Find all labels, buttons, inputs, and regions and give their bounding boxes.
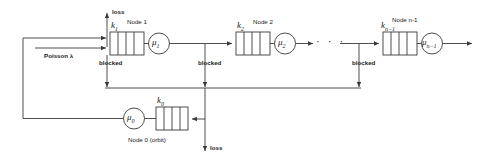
node-n1-buffer-box bbox=[383, 32, 417, 55]
poisson-arrival-label: Poisson λ bbox=[44, 52, 73, 59]
node-n1-name-label: Node n-1 bbox=[392, 16, 417, 23]
node1-buffer-box bbox=[110, 32, 144, 55]
node2-name-label: Node 2 bbox=[253, 18, 273, 25]
loss-top-label: loss bbox=[112, 8, 124, 15]
node2-buffer-box bbox=[236, 32, 270, 55]
node1-name-label: Node 1 bbox=[127, 18, 147, 25]
node1-buffer-capacity-label: k1 bbox=[111, 20, 118, 32]
node1-blocked-label: blocked bbox=[99, 59, 122, 66]
ellipsis-label: · · · bbox=[316, 35, 346, 47]
node0-buffer-capacity-label: k0 bbox=[157, 95, 164, 107]
queueing-network-diagram: loss Node 1 k1 μ1 blocked Poisson λ Node… bbox=[0, 0, 482, 166]
orbit-retrial-path bbox=[23, 38, 124, 119]
loss-bottom-label: loss bbox=[210, 144, 222, 151]
node2-service-rate-label: μ2 bbox=[278, 37, 286, 49]
node-n1-blocked-label: blocked bbox=[352, 59, 375, 66]
node0-name-label: Node 0 (orbit) bbox=[128, 136, 166, 143]
node2-blocked-label: blocked bbox=[198, 59, 221, 66]
node2-buffer-capacity-label: k2 bbox=[237, 20, 244, 32]
node0-service-rate-label: μ0 bbox=[127, 112, 135, 124]
node-n1-buffer-capacity-label: kn−1 bbox=[381, 20, 395, 32]
node1-service-rate-label: μ1 bbox=[152, 37, 160, 49]
node-n1-service-rate-label: μn−1 bbox=[422, 37, 437, 49]
